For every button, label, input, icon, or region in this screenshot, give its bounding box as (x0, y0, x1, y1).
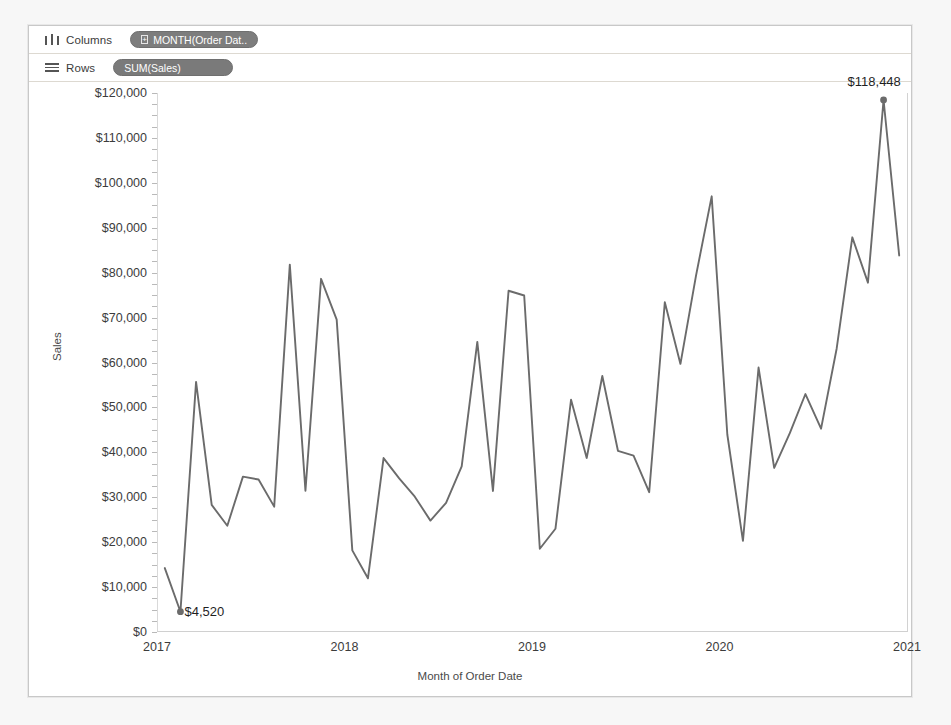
y-axis-tick (152, 93, 157, 94)
x-tick-label: 2019 (518, 640, 546, 654)
y-axis-tick (152, 452, 157, 453)
y-axis-tick (152, 261, 157, 262)
y-axis-tick (152, 194, 157, 195)
y-axis-tick (152, 374, 157, 375)
y-axis-tick (152, 239, 157, 240)
y-axis-tick (152, 565, 157, 566)
x-tick-label: 2020 (706, 640, 734, 654)
columns-icon (45, 34, 59, 45)
y-axis-tick (152, 464, 157, 465)
y-axis-tick (152, 621, 157, 622)
y-axis-tick (152, 553, 157, 554)
y-axis-tick (152, 306, 157, 307)
screenshot-root: Columns + MONTH(Order Dat.. Rows SUM(Sal… (0, 0, 951, 725)
x-axis-title: Month of Order Date (29, 670, 911, 682)
pill-sum-sales-label: SUM(Sales) (124, 62, 181, 74)
y-axis-tick (152, 520, 157, 521)
y-axis-tick (152, 172, 157, 173)
y-axis-tick (152, 396, 157, 397)
x-tick-label: 2021 (893, 640, 921, 654)
y-axis-tick (152, 228, 157, 229)
rows-shelf[interactable]: Rows SUM(Sales) (29, 54, 911, 82)
y-axis-tick (152, 363, 157, 364)
y-axis-tick (152, 329, 157, 330)
x-tick-label: 2017 (143, 640, 171, 654)
y-axis-tick (152, 160, 157, 161)
tableau-worksheet: Columns + MONTH(Order Dat.. Rows SUM(Sal… (28, 25, 912, 697)
x-axis-labels: 20172018201920202021 (29, 640, 911, 656)
min-label-marker[interactable] (177, 608, 184, 615)
pill-expand-icon[interactable]: + (141, 35, 148, 44)
y-axis-tick (152, 419, 157, 420)
y-axis-tick (152, 610, 157, 611)
y-axis-tick (152, 486, 157, 487)
y-axis-tick (152, 576, 157, 577)
y-axis-tick (152, 385, 157, 386)
max-label-marker[interactable] (880, 97, 887, 104)
y-axis-tick (152, 295, 157, 296)
sales-line[interactable] (165, 100, 899, 612)
y-axis-tick (152, 340, 157, 341)
y-axis-tick (152, 587, 157, 588)
rows-shelf-label: Rows (66, 62, 95, 74)
y-axis-tick (152, 475, 157, 476)
y-axis-tick (152, 632, 157, 633)
y-axis-tick (152, 407, 157, 408)
y-axis-tick (152, 138, 157, 139)
y-axis-tick (152, 183, 157, 184)
y-axis-tick (152, 441, 157, 442)
columns-shelf[interactable]: Columns + MONTH(Order Dat.. (29, 26, 911, 54)
rows-icon (45, 62, 59, 73)
x-tick-label: 2018 (331, 640, 359, 654)
y-axis-tick (152, 127, 157, 128)
min-label: $4,520 (184, 604, 224, 619)
columns-shelf-label: Columns (66, 34, 112, 46)
y-axis-tick (152, 598, 157, 599)
y-axis-tick (152, 205, 157, 206)
y-axis-tick (152, 217, 157, 218)
chart-viewport: Sales $120,000$110,000$100,000$90,000$80… (29, 83, 911, 696)
y-axis-tick (152, 318, 157, 319)
y-axis-tick (152, 104, 157, 105)
y-axis-tick (152, 115, 157, 116)
y-axis-tick (152, 497, 157, 498)
pill-month-order-date[interactable]: + MONTH(Order Dat.. (130, 31, 258, 48)
y-axis-tick (152, 508, 157, 509)
line-chart-plot[interactable] (29, 83, 911, 696)
y-axis-tick (152, 149, 157, 150)
y-axis-tick (152, 273, 157, 274)
pill-month-order-date-label: MONTH(Order Dat.. (153, 34, 247, 46)
y-axis-tick (152, 542, 157, 543)
y-axis-tick (152, 430, 157, 431)
pill-sum-sales[interactable]: SUM(Sales) (113, 59, 233, 76)
max-label: $118,448 (848, 74, 901, 89)
y-axis-tick (152, 250, 157, 251)
y-axis-tick (152, 531, 157, 532)
y-axis-tick (152, 284, 157, 285)
y-axis-tick (152, 351, 157, 352)
